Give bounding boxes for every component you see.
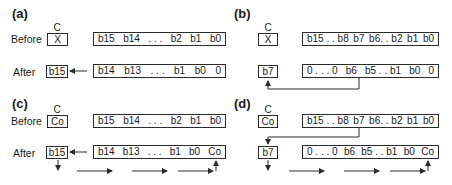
arrow-b-b7-to-carry-icon bbox=[268, 78, 359, 89]
arrow-layer bbox=[0, 0, 452, 185]
arrow-d-b7-to-carry-icon bbox=[268, 128, 359, 144]
